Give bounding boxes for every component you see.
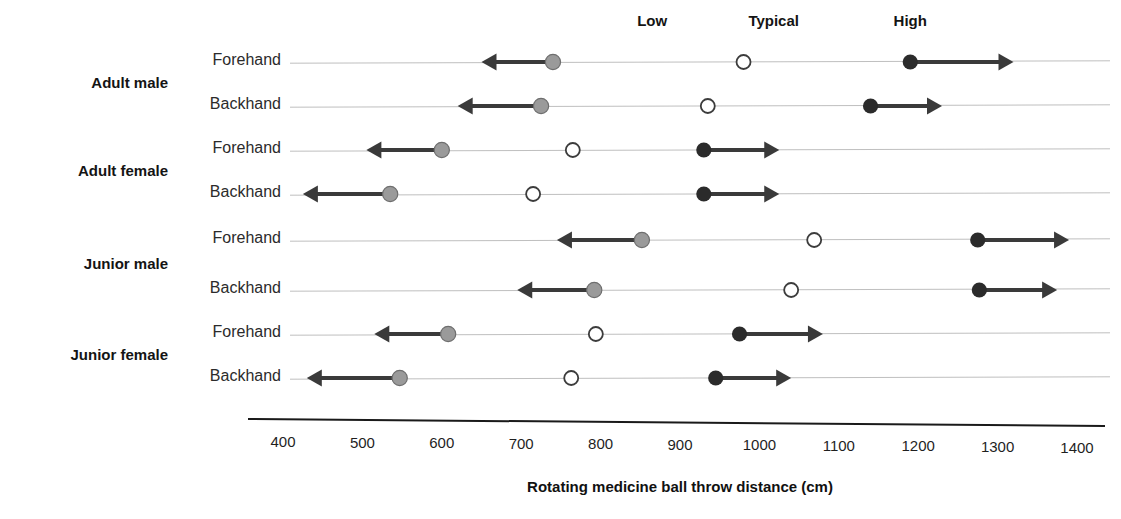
- high-marker-junior-female-backhand: [708, 370, 723, 385]
- low-arrow-head-adult-female-forehand: [366, 142, 381, 159]
- low-arrow-head-junior-female-forehand: [374, 326, 389, 343]
- high-marker-adult-male-forehand: [903, 54, 918, 69]
- low-arrow-head-adult-female-backhand: [303, 186, 318, 203]
- typical-marker-adult-male-backhand: [701, 99, 715, 113]
- low-arrow-head-adult-male-backhand: [458, 98, 473, 115]
- x-tick-1400: 1400: [1060, 439, 1093, 456]
- x-axis-title: Rotating medicine ball throw distance (c…: [527, 478, 833, 495]
- typical-marker-junior-male-forehand: [807, 233, 821, 247]
- x-tick-600: 600: [429, 434, 454, 451]
- low-arrow-head-junior-male-forehand: [557, 232, 572, 249]
- x-tick-400: 400: [270, 433, 295, 450]
- typical-marker-junior-female-backhand: [564, 371, 578, 385]
- typical-marker-adult-male-forehand: [737, 55, 751, 69]
- high-marker-adult-female-backhand: [696, 186, 711, 201]
- low-marker-adult-female-backhand: [383, 186, 398, 201]
- high-arrow-head-junior-male-forehand: [1054, 232, 1069, 249]
- row-baseline-junior-female-backhand: [290, 377, 1110, 379]
- x-tick-800: 800: [588, 435, 613, 452]
- x-tick-900: 900: [667, 436, 692, 453]
- high-marker-adult-male-backhand: [863, 98, 878, 113]
- x-tick-500: 500: [350, 434, 375, 451]
- low-arrow-head-junior-male-backhand: [517, 282, 532, 299]
- high-arrow-head-adult-male-forehand: [998, 54, 1013, 71]
- low-arrow-head-junior-female-backhand: [307, 370, 322, 387]
- high-marker-junior-male-backhand: [972, 282, 987, 297]
- rotating-medicine-ball-throw-chart: Low Typical High Adult male Adult female…: [0, 0, 1121, 519]
- x-tick-700: 700: [509, 435, 534, 452]
- high-arrow-head-junior-male-backhand: [1042, 282, 1057, 299]
- high-arrow-head-junior-female-backhand: [776, 370, 791, 387]
- x-tick-1000: 1000: [743, 436, 776, 453]
- high-arrow-head-junior-female-forehand: [808, 326, 823, 343]
- typical-marker-junior-female-forehand: [589, 327, 603, 341]
- high-marker-junior-female-forehand: [732, 326, 747, 341]
- low-marker-junior-female-forehand: [441, 326, 456, 341]
- x-tick-1200: 1200: [902, 437, 935, 454]
- low-arrow-head-adult-male-forehand: [482, 54, 497, 71]
- low-marker-adult-female-forehand: [434, 142, 449, 157]
- x-tick-1300: 1300: [981, 438, 1014, 455]
- high-arrow-head-adult-male-backhand: [927, 98, 942, 115]
- typical-marker-adult-female-backhand: [526, 187, 540, 201]
- plot-area: [0, 0, 1121, 519]
- low-marker-junior-female-backhand: [392, 370, 407, 385]
- high-marker-junior-male-forehand: [970, 232, 985, 247]
- low-marker-junior-male-forehand: [634, 232, 649, 247]
- low-marker-junior-male-backhand: [587, 282, 602, 297]
- low-marker-adult-male-backhand: [533, 98, 548, 113]
- typical-marker-adult-female-forehand: [566, 143, 580, 157]
- x-tick-1100: 1100: [823, 437, 855, 454]
- high-marker-adult-female-forehand: [696, 142, 711, 157]
- typical-marker-junior-male-backhand: [784, 283, 798, 297]
- low-marker-adult-male-forehand: [545, 54, 560, 69]
- high-arrow-head-adult-female-forehand: [764, 142, 779, 159]
- high-arrow-head-adult-female-backhand: [764, 186, 779, 203]
- x-axis-line: [248, 419, 1105, 426]
